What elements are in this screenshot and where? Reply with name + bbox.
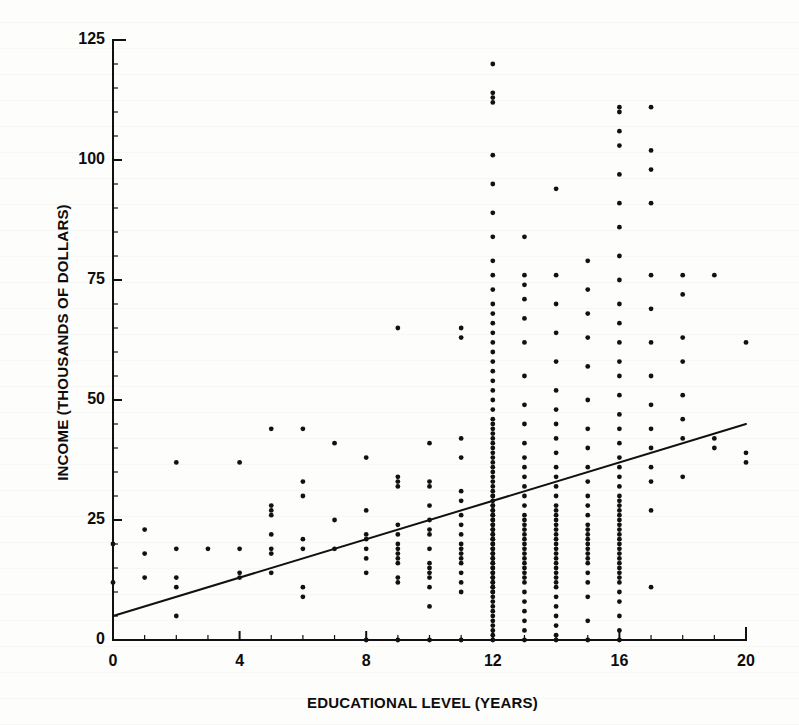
data-point xyxy=(617,561,622,566)
data-point xyxy=(649,465,654,470)
data-point xyxy=(395,556,400,561)
data-point xyxy=(617,441,622,446)
data-point xyxy=(554,186,559,191)
data-point xyxy=(459,546,464,551)
data-point xyxy=(617,508,622,513)
data-point xyxy=(490,494,495,499)
data-point xyxy=(617,225,622,230)
data-point xyxy=(490,474,495,479)
data-point xyxy=(522,422,527,427)
data-point xyxy=(490,436,495,441)
data-point xyxy=(522,522,527,527)
y-axis-tick-label: 125 xyxy=(59,30,105,48)
data-point xyxy=(585,570,590,575)
data-point xyxy=(522,590,527,595)
data-point xyxy=(427,585,432,590)
data-point xyxy=(490,441,495,446)
data-point xyxy=(490,258,495,263)
data-point xyxy=(490,556,495,561)
data-point xyxy=(490,422,495,427)
data-point xyxy=(617,426,622,431)
data-point xyxy=(522,297,527,302)
x-axis-tick-label: 16 xyxy=(599,652,639,670)
data-point xyxy=(617,172,622,177)
data-point xyxy=(617,542,622,547)
data-point xyxy=(490,446,495,451)
data-point xyxy=(301,546,306,551)
data-point xyxy=(554,575,559,580)
data-point xyxy=(585,335,590,340)
data-point xyxy=(522,374,527,379)
y-axis-ticks xyxy=(113,40,122,640)
data-point xyxy=(490,398,495,403)
data-point xyxy=(617,302,622,307)
data-point xyxy=(364,532,369,537)
data-point xyxy=(554,527,559,532)
data-point xyxy=(459,532,464,537)
data-point xyxy=(301,494,306,499)
data-point xyxy=(617,359,622,364)
data-point xyxy=(554,594,559,599)
data-point xyxy=(490,369,495,374)
data-point xyxy=(490,340,495,345)
data-point xyxy=(585,426,590,431)
data-point xyxy=(522,532,527,537)
data-point xyxy=(490,604,495,609)
data-point xyxy=(649,585,654,590)
data-point xyxy=(490,537,495,542)
data-point xyxy=(427,484,432,489)
data-point xyxy=(490,431,495,436)
data-point xyxy=(554,474,559,479)
data-point xyxy=(585,556,590,561)
data-point xyxy=(617,494,622,499)
data-point xyxy=(427,532,432,537)
data-point xyxy=(585,580,590,585)
data-point xyxy=(332,518,337,523)
data-point xyxy=(490,455,495,460)
data-point xyxy=(617,254,622,259)
data-point xyxy=(585,258,590,263)
data-point xyxy=(490,590,495,595)
data-point xyxy=(617,503,622,508)
data-point xyxy=(459,326,464,331)
data-point xyxy=(174,460,179,465)
data-point xyxy=(744,460,749,465)
data-point xyxy=(522,542,527,547)
data-point xyxy=(522,503,527,508)
data-point xyxy=(744,450,749,455)
x-axis-tick-label: 4 xyxy=(220,652,260,670)
data-point xyxy=(617,201,622,206)
data-point xyxy=(459,335,464,340)
data-point xyxy=(554,532,559,537)
x-axis-tick-label: 12 xyxy=(473,652,513,670)
data-point xyxy=(395,580,400,585)
data-point xyxy=(522,402,527,407)
data-point xyxy=(237,570,242,575)
data-point xyxy=(585,537,590,542)
data-point xyxy=(554,494,559,499)
data-point xyxy=(490,484,495,489)
data-point xyxy=(554,450,559,455)
data-point xyxy=(522,527,527,532)
data-point xyxy=(364,508,369,513)
data-point xyxy=(554,503,559,508)
data-point xyxy=(680,436,685,441)
data-point xyxy=(554,561,559,566)
data-point xyxy=(554,551,559,556)
data-point xyxy=(427,604,432,609)
data-point xyxy=(427,570,432,575)
data-point xyxy=(522,518,527,523)
data-point xyxy=(585,594,590,599)
data-point xyxy=(585,561,590,566)
data-point xyxy=(427,479,432,484)
data-point xyxy=(617,638,622,643)
data-point xyxy=(554,359,559,364)
data-point xyxy=(490,465,495,470)
data-point xyxy=(490,153,495,158)
data-point xyxy=(395,522,400,527)
data-point xyxy=(554,633,559,638)
data-point xyxy=(427,546,432,551)
data-point xyxy=(617,532,622,537)
data-point xyxy=(522,546,527,551)
scatterplot-canvas xyxy=(0,0,799,725)
